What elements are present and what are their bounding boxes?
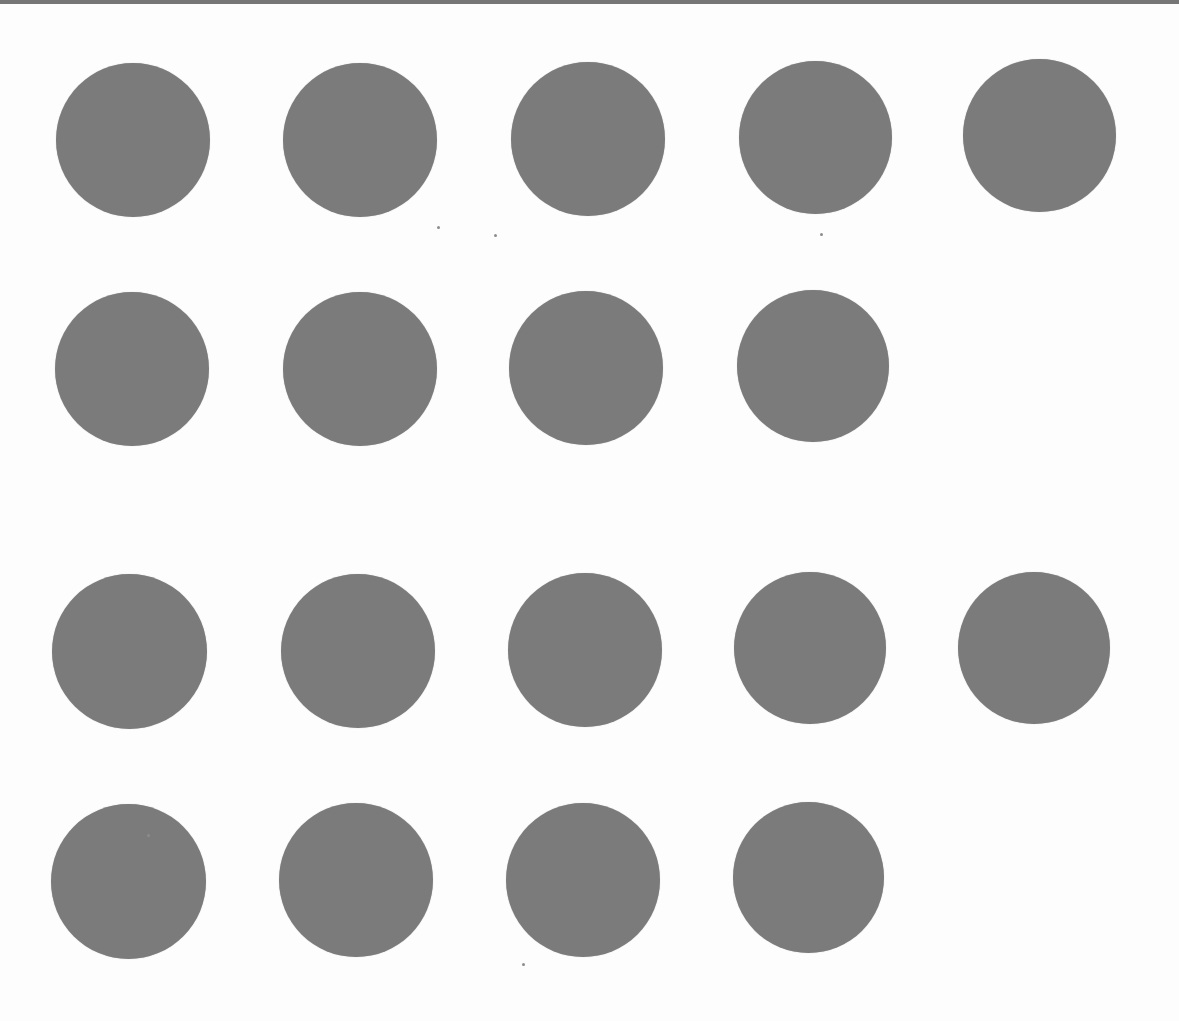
gray-dot-row2-4 (737, 290, 889, 442)
gray-dot-row3-3 (508, 573, 662, 727)
gray-dot-row4-3 (506, 803, 660, 957)
scan-speck-4 (147, 834, 150, 837)
gray-dot-row1-4 (739, 61, 892, 214)
gray-dot-row1-3 (511, 62, 665, 216)
gray-dot-row3-1 (52, 574, 207, 729)
dot-sheet (0, 4, 1179, 1021)
gray-dot-row4-4 (733, 802, 884, 953)
scan-speck-1 (437, 226, 440, 229)
gray-dot-row3-2 (281, 574, 435, 728)
gray-dot-row1-1 (56, 63, 210, 217)
gray-dot-row2-1 (55, 292, 209, 446)
gray-dot-row3-5 (958, 572, 1110, 724)
gray-dot-row2-2 (283, 292, 437, 446)
scan-speck-3 (820, 233, 823, 236)
gray-dot-row4-2 (279, 803, 433, 957)
gray-dot-row1-5 (963, 59, 1116, 212)
scan-speck-2 (494, 234, 497, 237)
gray-dot-row4-1 (51, 804, 206, 959)
gray-dot-row2-3 (509, 291, 663, 445)
scan-speck-5 (522, 963, 525, 966)
gray-dot-row1-2 (283, 63, 437, 217)
gray-dot-row3-4 (734, 572, 886, 724)
